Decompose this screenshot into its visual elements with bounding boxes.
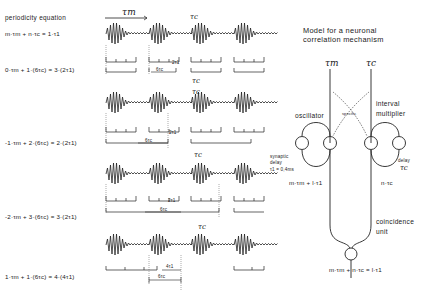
tau-m-period-label: τm [122, 7, 136, 17]
delta-label-row2: 2τ1 [169, 130, 177, 136]
delta-label-row1: 2τ1 [172, 60, 180, 66]
span-label-row1: 6τc [156, 67, 163, 73]
unit-label: unit [376, 228, 388, 235]
delta-label-row4: 4τ1 [166, 264, 174, 270]
delay-tau-c: τc [400, 164, 408, 172]
tau-c-label-row2-top: τc [192, 88, 200, 96]
delta-label-row3: 2τ1 [168, 198, 176, 204]
multiplier-label: multiplier [376, 110, 405, 117]
tau-c-label-row1-top: τc [190, 13, 198, 21]
waveform-row-1 [105, 16, 278, 75]
waveform-figure [0, 0, 430, 297]
specific-label: specific [342, 112, 356, 118]
oscillator-label: oscillator [295, 112, 324, 119]
tau-c-label-row2-bottom: τc [194, 151, 202, 159]
input-tau-c: τc [366, 58, 376, 68]
waveform-row-3 [106, 163, 278, 218]
span-label-row2: 6τc [145, 138, 152, 144]
span-label-row3: 6τc [160, 207, 167, 213]
interval-label: interval [376, 100, 400, 107]
delay-label: delay [398, 158, 410, 164]
model-title-line2: correlation mechanism [303, 35, 384, 44]
span-label-row4: 6τc [158, 274, 165, 280]
coincidence-label: coincidence [376, 218, 414, 225]
multiplier-output: n·τc [381, 179, 393, 186]
oscillator-output: m·τm + l·τ1 [289, 179, 322, 186]
waveform-row-2 [106, 92, 278, 149]
final-equation: m·τm + n·τc = l·τ1 [329, 266, 382, 273]
synaptic-label: synaptic [270, 154, 288, 160]
model-title-line1: Model for a neuronal [303, 26, 377, 35]
synaptic-delay-label: delay [270, 160, 282, 166]
waveform-row-4 [106, 234, 278, 291]
tau-c-label-row3-bottom: τc [198, 223, 206, 231]
input-tau-m: τm [325, 58, 339, 68]
synaptic-tau-value: τ1 = 0,4ms [270, 167, 294, 173]
tau-c-label-row1-bottom: τc [192, 77, 200, 85]
